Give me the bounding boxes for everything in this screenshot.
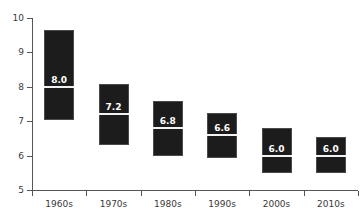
y-axis-tick: [27, 52, 32, 53]
y-axis-tick: [27, 87, 32, 88]
y-axis-tick-label: 5: [0, 186, 24, 195]
y-axis-tick-label: 8: [0, 83, 24, 92]
x-axis-tick: [32, 191, 33, 196]
x-axis-tick-label: 2000s: [249, 199, 303, 209]
y-axis-tick-label: 10: [0, 14, 24, 23]
y-axis-tick-label: 7: [0, 117, 24, 126]
x-axis-tick: [195, 191, 196, 196]
box-plot-median-line: [44, 86, 74, 88]
y-axis-tick-label: 6: [0, 152, 24, 161]
x-axis-tick-label: 1990s: [195, 199, 249, 209]
x-axis-tick: [141, 191, 142, 196]
y-axis-tick: [27, 156, 32, 157]
x-axis-tick: [358, 191, 359, 196]
box-plot-median-line: [316, 155, 346, 157]
x-axis-tick-label: 1960s: [32, 199, 86, 209]
box-plot-chart: 1098765 1960s1970s1980s1990s2000s2010s 8…: [0, 0, 363, 220]
x-axis-tick: [249, 191, 250, 196]
box-plot-median-line: [153, 127, 183, 129]
x-axis-tick: [86, 191, 87, 196]
x-axis-tick-label: 2010s: [304, 199, 358, 209]
y-axis-tick: [27, 18, 32, 19]
x-axis-tick-label: 1980s: [141, 199, 195, 209]
box-plot-box: [262, 128, 292, 173]
x-axis-tick-label: 1970s: [86, 199, 140, 209]
box-plot-median-line: [99, 113, 129, 115]
box-plot-box: [44, 30, 74, 120]
x-axis-tick: [304, 191, 305, 196]
y-axis-line: [32, 18, 33, 191]
chart-title: [0, 0, 363, 2]
y-axis-tick-label: 9: [0, 48, 24, 57]
y-axis-tick: [27, 121, 32, 122]
box-plot-median-line: [207, 134, 237, 136]
box-plot-median-line: [262, 155, 292, 157]
